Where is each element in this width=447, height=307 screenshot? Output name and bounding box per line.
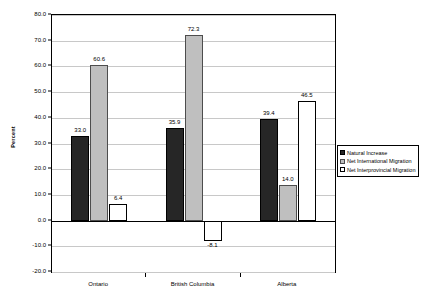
bar-value-label: 33.0 (74, 127, 86, 133)
bar-value-label: 39.4 (263, 110, 275, 116)
y-axis-tick-label: 60.0 (34, 62, 46, 68)
bar-value-label: 14.0 (282, 176, 294, 182)
gridline (52, 246, 335, 247)
y-axis-tick-label: 80.0 (34, 11, 46, 17)
bar (260, 119, 278, 220)
x-axis-category-label: Ontario (88, 281, 108, 287)
legend-item-net-interprovincial-migration: Net Interprovincial Migration (340, 166, 415, 174)
y-axis-tick-label: 30.0 (34, 140, 46, 146)
bar (279, 185, 297, 221)
y-axis-tick-label: 50.0 (34, 88, 46, 94)
gridline (52, 15, 335, 16)
x-axis-category-label: Alberta (277, 281, 296, 287)
y-axis-tick-label: -20.0 (32, 268, 46, 274)
y-axis-tick-label: 20.0 (34, 165, 46, 171)
y-axis-tick-label: 10.0 (34, 191, 46, 197)
legend-label-natural-increase: Natural Increase (347, 150, 387, 156)
x-axis-tick-mark (240, 273, 241, 277)
y-axis-tick-label: 70.0 (34, 37, 46, 43)
x-axis-category-labels: OntarioBritish ColumbiaAlberta (51, 277, 336, 291)
bar (185, 35, 203, 221)
legend-swatch-icon-net-interprovincial-migration (340, 167, 345, 172)
y-axis-tick-label: -10.0 (32, 242, 46, 248)
x-axis-category-label: British Columbia (171, 281, 215, 287)
legend-label-net-international-migration: Net International Migration (347, 158, 412, 164)
legend-swatch-icon-natural-increase (340, 150, 345, 155)
bar-value-label: 6.4 (114, 195, 122, 201)
y-axis-title-text: Percent (10, 126, 16, 148)
gridline (52, 272, 335, 273)
bar-chart: Percent 80.070.060.050.040.030.020.010.0… (0, 0, 447, 307)
bar (90, 65, 108, 221)
bar-value-label: -8.1 (207, 242, 217, 248)
bar-value-label: 35.9 (169, 119, 181, 125)
legend-item-net-international-migration: Net International Migration (340, 157, 415, 165)
y-axis-tick-label: 0.0 (38, 217, 46, 223)
bar-value-label: 46.5 (301, 92, 313, 98)
legend-swatch-icon-net-international-migration (340, 159, 345, 164)
bar (166, 128, 184, 220)
plot-area: 33.060.66.435.972.3-8.139.414.046.5 (51, 14, 336, 273)
legend-item-natural-increase: Natural Increase (340, 149, 415, 157)
bar (204, 221, 222, 242)
bar-value-label: 72.3 (188, 26, 200, 32)
x-axis-tick-mark (145, 273, 146, 277)
y-axis-tick-label: 40.0 (34, 114, 46, 120)
chart-legend: Natural Increase Net International Migra… (337, 145, 419, 177)
y-axis-tick-labels: 80.070.060.050.040.030.020.010.00.0-10.0… (18, 0, 48, 273)
bar-value-label: 60.6 (93, 56, 105, 62)
bar (109, 204, 127, 220)
bar (71, 136, 89, 221)
legend-label-net-interprovincial-migration: Net Interprovincial Migration (347, 167, 415, 173)
bar (298, 101, 316, 221)
zero-baseline (52, 221, 335, 222)
